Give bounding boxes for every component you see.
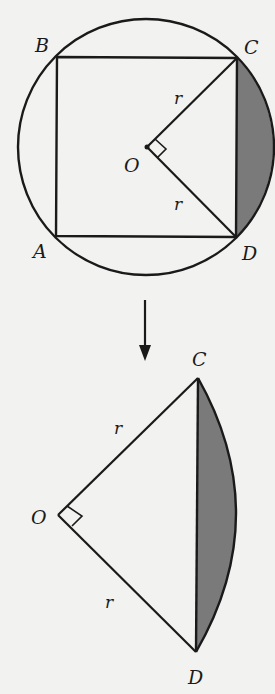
label-d: D — [187, 666, 203, 688]
label-r-upper: r — [114, 418, 123, 438]
label-c: C — [192, 348, 207, 370]
sector-figure: C D O r r — [31, 348, 236, 688]
circle-inscribed-square-figure: B C A D O r r — [18, 19, 274, 275]
radius-od — [58, 515, 196, 652]
label-c: C — [244, 36, 259, 58]
label-r-lower: r — [174, 194, 183, 214]
label-d: D — [241, 242, 257, 264]
down-arrow-icon — [139, 300, 151, 361]
center-point-o — [145, 145, 150, 150]
label-a: A — [31, 240, 47, 262]
label-r-lower: r — [105, 592, 114, 612]
radius-oc — [58, 378, 198, 515]
shaded-segment — [236, 58, 273, 237]
label-o: O — [31, 506, 47, 528]
right-angle-mark — [67, 506, 82, 526]
label-b: B — [34, 34, 49, 56]
radius-oc — [147, 58, 237, 147]
diagram: B C A D O r r C D O r r — [0, 0, 275, 694]
radius-od — [147, 147, 236, 237]
right-angle-mark — [155, 139, 166, 158]
label-r-upper: r — [174, 88, 183, 108]
label-o: O — [124, 154, 140, 176]
